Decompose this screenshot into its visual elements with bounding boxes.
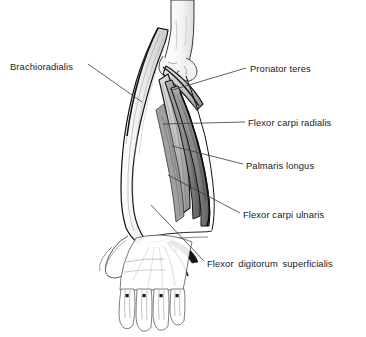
label-flexor-carpi-radialis: Flexor carpi radialis bbox=[248, 118, 331, 127]
label-flexor-digitorum-superficialis: Flexor digitorum superficialis bbox=[207, 259, 333, 268]
label-palmaris-longus: Palmaris longus bbox=[246, 161, 314, 170]
label-pronator-teres: Pronator teres bbox=[250, 64, 311, 73]
anatomy-figure-page: Brachioradialis Pronator teres Flexor ca… bbox=[0, 0, 366, 337]
label-flexor-carpi-ulnaris: Flexor carpi ulnaris bbox=[243, 210, 324, 219]
label-brachioradialis: Brachioradialis bbox=[10, 62, 73, 71]
